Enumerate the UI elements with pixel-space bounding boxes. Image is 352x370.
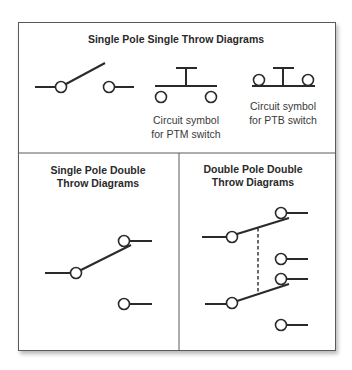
terminal-node xyxy=(156,92,167,103)
spdt-title-line2: Throw Diagrams xyxy=(57,177,139,189)
terminal-node xyxy=(276,274,287,285)
terminal-node xyxy=(119,299,130,310)
spst-panel: Single Pole Single Throw Diagrams Circui… xyxy=(35,33,317,140)
ptm-caption-line1: Circuit symbol xyxy=(153,114,219,126)
terminal-node xyxy=(206,92,217,103)
dpdt-title-line1: Double Pole Double xyxy=(203,163,302,175)
spst-switch-symbol xyxy=(35,63,134,93)
ptb-switch-symbol xyxy=(252,68,315,86)
terminal-node xyxy=(276,208,287,219)
terminal-node xyxy=(71,268,82,279)
terminal-node xyxy=(303,75,314,86)
terminal-node xyxy=(56,82,67,93)
terminal-node xyxy=(227,232,238,243)
dpdt-panel: Double Pole Double Throw Diagrams xyxy=(202,163,308,331)
dpdt-title-line2: Throw Diagrams xyxy=(212,176,294,188)
switch-diagrams: Single Pole Single Throw Diagrams Circui… xyxy=(0,0,352,370)
spst-title: Single Pole Single Throw Diagrams xyxy=(88,33,264,45)
ptb-caption-line2: for PTB switch xyxy=(249,114,317,126)
terminal-node xyxy=(227,298,238,309)
ptm-caption-line2: for PTM switch xyxy=(151,128,221,140)
terminal-node xyxy=(119,236,130,247)
spdt-switch-symbol xyxy=(45,236,152,310)
terminal-node xyxy=(104,82,115,93)
ptm-switch-symbol xyxy=(155,68,217,103)
terminal-node xyxy=(276,254,287,265)
terminal-node xyxy=(276,320,287,331)
dpdt-switch-symbol xyxy=(202,208,308,331)
spdt-panel: Single Pole Double Throw Diagrams xyxy=(45,164,152,310)
ptb-caption-line1: Circuit symbol xyxy=(250,100,316,112)
terminal-node xyxy=(254,75,265,86)
spdt-title-line1: Single Pole Double xyxy=(50,164,145,176)
